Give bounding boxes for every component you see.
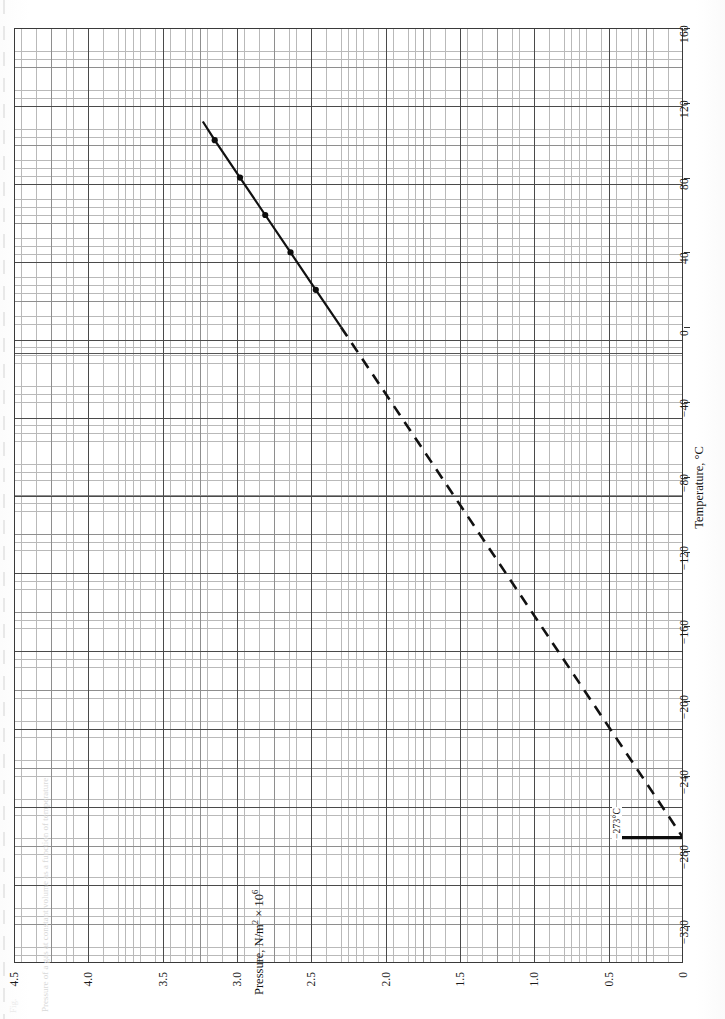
pressure-tick-label-text: 0 [677, 972, 689, 978]
pressure-tick-label-text: 1.5 [454, 972, 466, 986]
pressure-tick-label-text: 4.0 [82, 972, 94, 986]
temperature-tick-label: −280 [678, 845, 690, 870]
pressure-tick-label-text: 4.5 [8, 972, 20, 986]
figure-caption-text: Pressure of a gas at constant volume as … [40, 778, 50, 1012]
temperature-tick-label: −200 [678, 695, 690, 720]
pressure-tick-label: 0.5 [609, 958, 621, 972]
pressure-tick-label: 3.5 [163, 958, 175, 972]
pressure-tick-label: 1.0 [534, 958, 546, 972]
temperature-tick-label: −80 [678, 474, 690, 493]
temperature-tick-label: −320 [678, 919, 690, 944]
scanned-page: 16012080400−40−80−120−160−200−240−280−32… [0, 0, 725, 1019]
pressure-tick-label-text: 2.0 [380, 972, 392, 986]
temperature-tick-label: 0 [678, 330, 690, 336]
pressure-tick-label-text: 0.5 [603, 972, 615, 986]
figure-caption-label: Fig. [8, 999, 18, 1013]
pressure-tick-label: 2.5 [311, 958, 323, 972]
temperature-tick [684, 327, 690, 328]
pressure-tick-label-text: 2.5 [305, 972, 317, 986]
temperature-tick-label: −40 [678, 399, 690, 418]
pressure-tick-label: 3.0 [237, 958, 249, 972]
pressure-axis-title: Pressure, N/m2 × 106 [250, 890, 267, 995]
pressure-tick-label: 2.0 [386, 958, 398, 972]
temperature-tick-label: 120 [678, 100, 690, 118]
pressure-axis-title-text: Pressure, N/m2 × 106 [252, 890, 266, 995]
pressure-tick-label-text: 3.5 [157, 972, 169, 986]
absolute-zero-annotation: −273°C [612, 807, 622, 840]
temperature-tick-label: −120 [678, 545, 690, 570]
temperature-tick-label: 80 [678, 178, 690, 190]
scan-edge-artifact [3, 0, 5, 1019]
pressure-tick-label: 4.5 [14, 958, 26, 972]
temperature-tick-label: −240 [678, 770, 690, 795]
plot-border [14, 28, 683, 963]
pressure-tick-label: 4.0 [88, 958, 100, 972]
pressure-tick-label: 1.5 [460, 958, 472, 972]
temperature-tick-label: 40 [678, 252, 690, 264]
temperature-axis-title: Temperature, °C [692, 446, 707, 529]
temperature-tick-label: 160 [678, 25, 690, 43]
pressure-tick-label-text: 3.0 [231, 972, 243, 986]
temperature-tick-label: −160 [678, 620, 690, 645]
pressure-tick-label: 0 [683, 966, 695, 972]
pressure-tick-label-text: 1.0 [528, 972, 540, 986]
graph-plot-area [14, 28, 683, 963]
